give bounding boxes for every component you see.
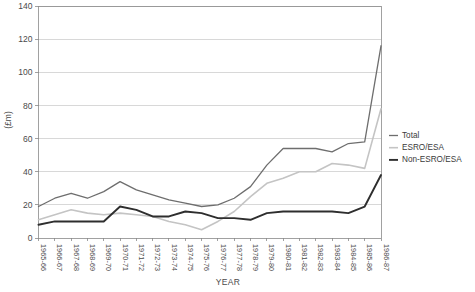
- x-tick-label: 1968-69: [88, 244, 97, 271]
- x-tick-label: 1969-70: [104, 244, 113, 271]
- series-line-non-esro-esa: [39, 175, 382, 225]
- y-axis-title: (£m): [3, 111, 13, 129]
- y-tick-label: 140: [18, 1, 32, 11]
- x-tick-label: 1980-81: [284, 244, 293, 271]
- line-chart: 020406080100120140 1965-661966-671967-68…: [0, 0, 475, 292]
- x-tick-label: 1972-73: [153, 244, 162, 271]
- plot-series: [39, 46, 382, 230]
- chart-legend: TotalESRO/ESANon-ESRO/ESA: [389, 131, 462, 164]
- x-tick-label: 1965-66: [39, 244, 48, 271]
- x-tick-label: 1979-80: [267, 244, 276, 271]
- x-tick-label: 1984-85: [349, 244, 358, 271]
- y-tick-label: 80: [23, 101, 33, 111]
- x-tick-label: 1974-75: [186, 244, 195, 271]
- y-tick-label: 60: [23, 134, 33, 144]
- x-tick-label: 1986-87: [382, 244, 391, 271]
- x-tick-labels: 1965-661966-671967-681968-691969-701970-…: [39, 238, 391, 271]
- x-tick-label: 1967-68: [72, 244, 81, 271]
- x-axis: [39, 6, 382, 238]
- x-tick-label: 1966-67: [55, 244, 64, 271]
- x-tick-label: 1971-72: [137, 244, 146, 271]
- x-tick-label: 1977-78: [235, 244, 244, 271]
- x-tick-label: 1985-86: [365, 244, 374, 271]
- x-tick-label: 1973-74: [170, 244, 179, 271]
- x-tick-label: 1982-83: [316, 244, 325, 271]
- x-tick-label: 1981-82: [300, 244, 309, 271]
- grid-lines: [39, 6, 382, 205]
- y-tick-labels: 020406080100120140: [18, 1, 38, 243]
- legend-label-esro-esa[interactable]: ESRO/ESA: [402, 143, 444, 152]
- y-tick-label: 120: [18, 34, 32, 44]
- legend-label-non-esro-esa[interactable]: Non-ESRO/ESA: [402, 155, 462, 164]
- chart-container: 020406080100120140 1965-661966-671967-68…: [0, 0, 475, 292]
- legend-label-total[interactable]: Total: [402, 131, 419, 140]
- x-axis-title: YEAR: [216, 277, 241, 287]
- x-tick-label: 1970-71: [121, 244, 130, 271]
- y-tick-label: 0: [28, 233, 33, 243]
- x-tick-label: 1976-77: [219, 244, 228, 271]
- y-tick-label: 100: [18, 67, 32, 77]
- y-tick-label: 40: [23, 167, 33, 177]
- x-tick-label: 1983-84: [333, 244, 342, 271]
- x-tick-label: 1978-79: [251, 244, 260, 271]
- y-tick-label: 20: [23, 200, 33, 210]
- x-tick-label: 1975-76: [202, 244, 211, 271]
- series-line-total: [39, 46, 382, 207]
